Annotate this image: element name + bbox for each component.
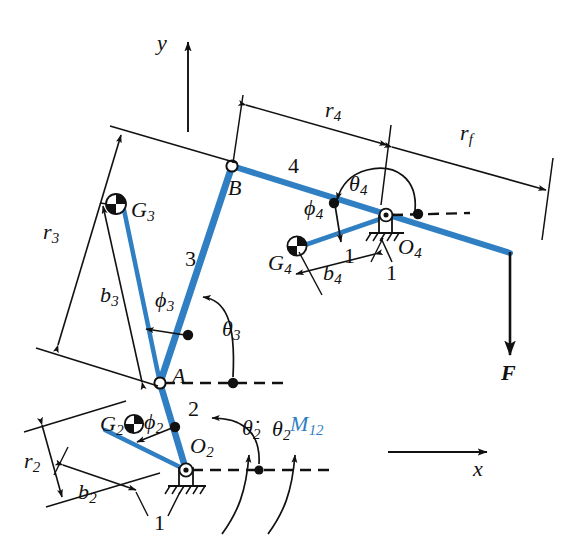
dimension-label-rf: rf: [460, 122, 473, 147]
dimension-rf-text: r: [460, 120, 469, 145]
angle-label-phi3: ϕ3: [155, 289, 174, 314]
ground-pivot-O2: [165, 463, 206, 516]
angle-label-phi2: ϕ2: [144, 411, 163, 436]
angle-phi2-sub: 2: [156, 420, 163, 436]
dimension-r3-text: r: [43, 219, 52, 244]
angle-phi3-text: ϕ: [155, 287, 166, 312]
force-label-F: F: [501, 362, 516, 384]
dimension-r4-sub: 4: [334, 108, 341, 124]
y-axis-label: y: [157, 32, 167, 54]
mass-center-G2-text: G: [100, 411, 116, 436]
moment-text: M: [290, 411, 308, 436]
angle-arc-phi3: [146, 329, 193, 340]
angle-theta3-text: θ: [222, 316, 233, 341]
joint-label-O4: O4: [398, 236, 422, 261]
angle-theta3-sub: 3: [233, 327, 240, 343]
dimension-label-r2: r2: [24, 450, 40, 475]
joint-label-O4-text: O: [398, 234, 414, 259]
moment-label-M12: M12: [290, 413, 324, 438]
dimension-r2-text: r: [24, 448, 33, 473]
dimension-label-r3: r3: [43, 221, 59, 246]
dimension-label-b2: b2: [78, 481, 97, 506]
dimension-r3-sub: 3: [52, 230, 59, 246]
pin-joint-A: [154, 377, 165, 388]
angle-phi2-text: ϕ: [144, 409, 155, 434]
ground-label-1-O2: 1: [154, 512, 165, 534]
x-axis-label: x: [473, 458, 483, 480]
link-4-body: [232, 166, 510, 253]
dimension-b3-text: b: [100, 282, 111, 307]
angular-velocity-sub: 2: [253, 426, 260, 442]
linkage-diagram-svg: [0, 0, 585, 553]
link-label-4: 4: [288, 155, 299, 177]
link-3-body: [160, 166, 232, 383]
dimension-r2-sub: 2: [33, 459, 40, 475]
dimension-label-b4: b4: [323, 262, 342, 287]
angular-velocity-text: θ̇: [242, 415, 253, 440]
mass-center-label-G4: G4: [268, 252, 292, 277]
joint-label-B: B: [228, 177, 241, 199]
mass-center-G3-text: G: [131, 197, 147, 222]
angle-phi3-sub: 3: [167, 298, 174, 314]
joint-label-O4-sub: 4: [414, 245, 421, 261]
mass-center-G4-text: G: [268, 250, 284, 275]
mass-center-G2-sub: 2: [116, 422, 123, 438]
dimension-b3-sub: 3: [111, 293, 118, 309]
angle-label-theta4: θ4: [349, 173, 368, 198]
joint-label-O2-sub: 2: [206, 444, 213, 460]
figure-canvas: y x A B O2 O4 2 3 4 1 1 1 G2 G3 G4 r2 r3…: [0, 0, 585, 553]
dimension-r3: [36, 126, 237, 386]
dimension-b2-text: b: [78, 479, 89, 504]
mass-center-G4-sub: 4: [284, 261, 291, 277]
dimension-r4-text: r: [325, 97, 334, 122]
dimension-rf-sub: f: [469, 131, 473, 147]
angle-theta2-text: θ: [272, 416, 283, 441]
angle-theta4-text: θ: [349, 171, 360, 196]
angular-velocity-label: θ̇2: [242, 417, 261, 442]
dimension-b2-sub: 2: [89, 490, 96, 506]
dashed-ref-line-O2: [192, 465, 330, 474]
ground-label-1-b4: 1: [344, 245, 355, 267]
joint-label-A: A: [172, 365, 185, 387]
angle-phi4-sub: 4: [316, 206, 323, 222]
link-label-2: 2: [188, 398, 199, 420]
ground-label-1-O4: 1: [386, 262, 397, 284]
joint-label-O2-text: O: [190, 433, 206, 458]
joint-label-O2: O2: [190, 435, 214, 460]
mass-center-label-G3: G3: [131, 199, 155, 224]
angle-label-theta2: θ2: [272, 418, 291, 443]
moment-arrow: [268, 455, 295, 534]
dimension-b4-text: b: [323, 260, 334, 285]
dimension-label-r4: r4: [325, 99, 341, 124]
dimension-label-b3: b3: [100, 284, 119, 309]
mass-center-label-G2: G2: [100, 413, 124, 438]
link-label-3: 3: [185, 248, 196, 270]
moment-sub: 12: [309, 422, 324, 438]
mass-center-G3-symbol: [106, 194, 126, 214]
mass-center-G3-sub: 3: [147, 208, 154, 224]
angular-velocity-arrow: [222, 455, 249, 534]
angle-label-phi4: ϕ4: [304, 197, 323, 222]
mass-center-G2-symbol: [125, 415, 143, 433]
angle-theta4-sub: 4: [360, 182, 367, 198]
angle-label-theta3: θ3: [222, 318, 241, 343]
dimension-b4-sub: 4: [334, 271, 341, 287]
angle-phi4-text: ϕ: [304, 195, 315, 220]
